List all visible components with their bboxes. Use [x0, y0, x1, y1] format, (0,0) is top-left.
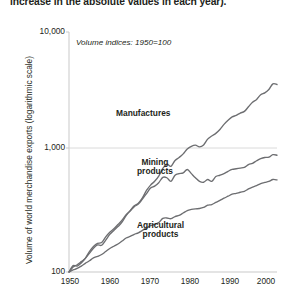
series-paths: [69, 84, 277, 272]
series-label-agricultural-line2: products: [143, 229, 179, 239]
series-label-mining: Miningproducts: [137, 158, 173, 177]
series-line-mining-products: [69, 155, 277, 272]
plot-area: [0, 0, 281, 302]
series-label-agricultural: Agriculturalproducts: [137, 221, 184, 240]
chart-figure: Volume of world merchandise exports (log…: [0, 0, 281, 302]
series-label-mining-line2: products: [137, 166, 173, 176]
series-label-manufactures: Manufactures: [116, 109, 170, 118]
